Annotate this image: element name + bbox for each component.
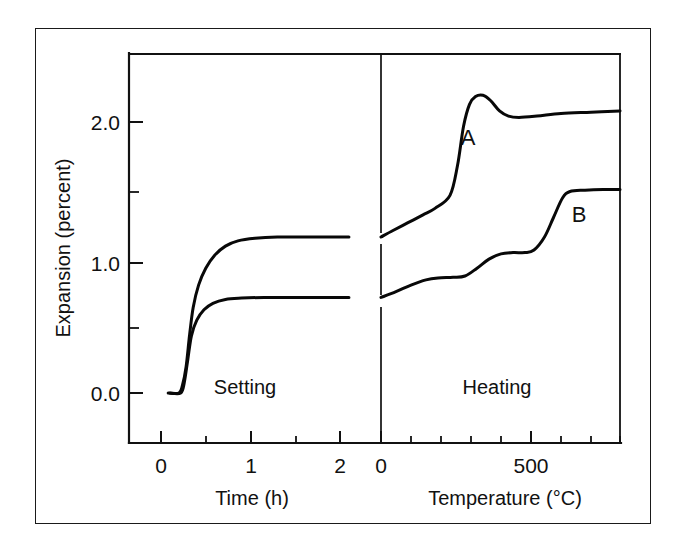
- time-axis-title: Time (h): [215, 487, 289, 509]
- curve-annotation-b: B: [572, 202, 587, 227]
- axis-group: [129, 53, 621, 443]
- y-tick-marks: [129, 122, 143, 393]
- y-tick-label-0.0: 0.0: [91, 382, 120, 405]
- time-axis-tick-labels: 0 1 2: [155, 454, 346, 477]
- temperature-axis-tick-labels: 0 500: [375, 454, 548, 477]
- temp-tick-label-500: 500: [513, 454, 548, 477]
- y-axis-title: Expansion (percent): [52, 159, 74, 338]
- figure-root: 2.0 1.0 0.0 Expansion (percent) 0 1 2 Ti…: [0, 0, 675, 548]
- curve-setting-a: [168, 237, 349, 394]
- time-tick-label-2: 2: [334, 454, 346, 477]
- region-label-setting: Setting: [214, 376, 276, 398]
- time-axis-ticks: [161, 431, 340, 443]
- time-tick-label-1: 1: [245, 454, 257, 477]
- temp-tick-label-0: 0: [375, 454, 387, 477]
- temperature-axis-ticks: [381, 431, 620, 443]
- region-label-heating: Heating: [463, 376, 532, 398]
- data-curves: [168, 95, 620, 394]
- time-tick-label-0: 0: [155, 454, 167, 477]
- expansion-chart: 2.0 1.0 0.0 Expansion (percent) 0 1 2 Ti…: [0, 0, 675, 548]
- y-tick-label-1.0: 1.0: [91, 252, 120, 275]
- y-tick-label-2.0: 2.0: [91, 111, 120, 134]
- temperature-axis-title: Temperature (°C): [428, 487, 582, 509]
- y-tick-labels: 2.0 1.0 0.0: [91, 111, 120, 405]
